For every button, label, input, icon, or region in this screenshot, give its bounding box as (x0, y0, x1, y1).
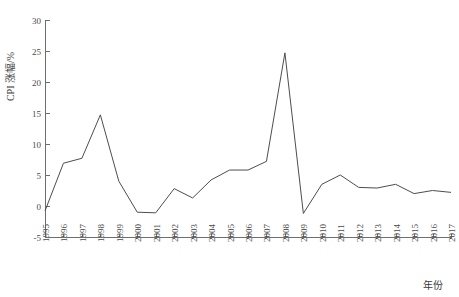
x-tick-label: 2015 (410, 224, 420, 243)
x-tick-label: 1996 (59, 224, 69, 243)
x-tick-label: 2016 (429, 224, 439, 243)
x-tick-label: 2003 (189, 224, 199, 243)
cpi-data-line (45, 53, 451, 214)
x-tick-label: 2001 (152, 224, 162, 242)
x-tick-label: 2014 (392, 224, 402, 243)
y-axis-title: CPI 涨幅/% (4, 52, 16, 101)
x-tick-label: 2007 (262, 224, 272, 243)
x-tick-label: 2013 (373, 224, 383, 243)
x-tick-label: 2009 (299, 224, 309, 243)
x-tick-label: 2017 (447, 224, 457, 243)
x-tick-label: 2012 (355, 224, 365, 242)
x-tick-label: 1998 (96, 224, 106, 243)
y-tick-label: 0 (37, 202, 42, 212)
y-tick-label: 15 (32, 109, 42, 119)
x-axis-title: 年份 (423, 279, 443, 291)
y-tick-label: 10 (32, 140, 42, 150)
y-tick-label: 20 (32, 78, 42, 88)
x-tick-label: 2011 (336, 224, 346, 242)
x-tick-label: 2008 (281, 224, 291, 243)
x-tick-label: 2006 (244, 224, 254, 243)
x-tick-label: 2000 (133, 224, 143, 243)
chart-container: -505101520253019951996199719981999200020… (0, 0, 459, 297)
y-tick-label: 5 (37, 171, 42, 181)
x-tick-label: 2010 (318, 224, 328, 243)
x-tick-label: 2004 (207, 224, 217, 243)
y-tick-label: 30 (32, 16, 42, 26)
line-chart: -505101520253019951996199719981999200020… (0, 0, 459, 297)
x-tick-label: 1999 (115, 224, 125, 243)
x-tick-label: 2002 (170, 224, 180, 242)
x-tick-label: 1997 (78, 224, 88, 243)
x-tick-label: 1995 (41, 224, 51, 243)
y-tick-label: 25 (32, 47, 42, 57)
x-tick-label: 2005 (226, 224, 236, 243)
